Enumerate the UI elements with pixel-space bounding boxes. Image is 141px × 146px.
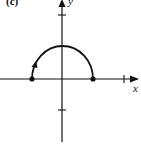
y-axis-label: y xyxy=(67,0,73,7)
x-axis-label: x xyxy=(132,82,138,94)
y-axis-arrow-icon xyxy=(59,0,66,7)
right-endpoint-dot xyxy=(90,76,95,81)
x-axis: x xyxy=(0,75,139,94)
left-endpoint-dot xyxy=(29,76,34,81)
y-axis: y xyxy=(58,0,73,142)
parametric-curve-figure: (c) x y xyxy=(0,0,141,146)
panel-label: (c) xyxy=(6,0,19,8)
